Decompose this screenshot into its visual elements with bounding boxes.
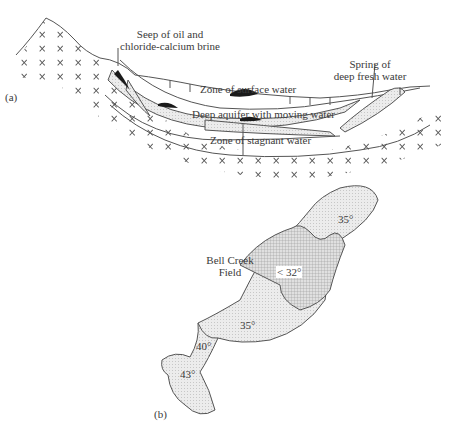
panel-a-label: (a) [5,91,17,103]
seep-callout-line2: chloride-calcium brine [110,40,230,52]
seep-callout: Seep of oil and chloride-calcium brine [110,28,230,52]
region-middle: 35° [240,319,255,331]
seep-callout-line1: Seep of oil and [110,28,230,40]
deep-aquifer-label: Deep aquifer with moving water [192,108,335,120]
spring-callout-line2: deep fresh water [330,70,410,82]
region-southwest-neck: 40° [196,340,211,352]
region-southwest-lobe: 43° [180,368,195,380]
surface-zone-label: Zone of surface water [200,83,296,95]
panel-b-label: (b) [154,408,167,420]
stagnant-zone-label: Zone of stagnant water [210,134,311,146]
spring-callout: Spring of deep fresh water [330,58,410,82]
field-name-line1: Bell Creek [200,254,260,266]
region-core: < 32° [276,266,302,278]
field-name: Bell Creek Field [200,254,260,278]
region-north-lobe: 35° [338,213,353,225]
cross-section [16,18,452,179]
field-name-line2: Field [200,266,260,278]
spring-callout-line1: Spring of [330,58,410,70]
